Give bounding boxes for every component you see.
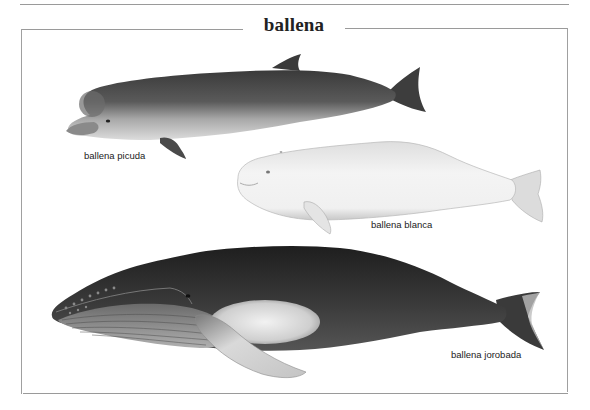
label-ballena-jorobada: ballena jorobada	[451, 349, 521, 360]
label-ballena-blanca: ballena blanca	[371, 219, 432, 230]
label-ballena-picuda: ballena picuda	[84, 150, 145, 161]
